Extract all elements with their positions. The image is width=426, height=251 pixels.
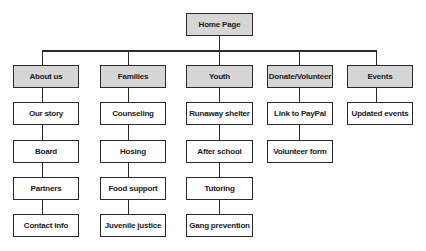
drop-youth xyxy=(219,50,220,65)
node-donate-volunteer: Donate/Volunteer xyxy=(267,65,333,88)
node-runaway-shelter: Runaway shelter xyxy=(186,102,253,125)
node-families: Families xyxy=(100,65,166,88)
column-line-events xyxy=(376,87,377,102)
drop-events xyxy=(376,50,377,65)
node-our-story: Our story xyxy=(13,102,79,125)
root-connector xyxy=(219,35,220,50)
node-board: Board xyxy=(13,140,79,163)
drop-donate xyxy=(299,50,300,65)
node-link-to-paypal: Link to PayPal xyxy=(267,102,333,125)
node-youth: Youth xyxy=(186,65,253,88)
node-after-school: After school xyxy=(186,140,253,163)
node-partners: Partners xyxy=(13,177,79,200)
node-food-support: Food support xyxy=(100,177,166,200)
node-tutoring: Tutoring xyxy=(186,177,253,200)
node-updated-events: Updated events xyxy=(347,102,413,125)
node-home-page: Home Page xyxy=(186,13,253,36)
node-counseling: Counseling xyxy=(100,102,166,125)
node-contact-info: Contact info xyxy=(13,214,79,237)
horizontal-bus xyxy=(42,50,377,52)
node-housing: Hosing xyxy=(100,140,166,163)
drop-families xyxy=(128,50,129,65)
node-volunteer-form: Volunteer form xyxy=(267,140,333,163)
node-about-us: About us xyxy=(13,65,79,88)
node-juvenile-justice: Juvenile justice xyxy=(100,214,166,237)
drop-about xyxy=(42,50,43,65)
node-gang-prevention: Gang prevention xyxy=(186,214,253,237)
node-events: Events xyxy=(347,65,413,88)
